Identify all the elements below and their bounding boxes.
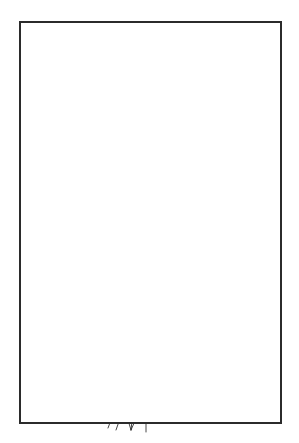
figure-root — [0, 0, 299, 443]
illustration-border — [19, 21, 282, 424]
